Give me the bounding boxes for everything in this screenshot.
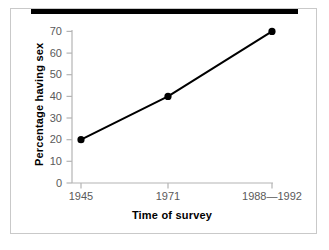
y-axis-ticks — [67, 31, 73, 183]
x-tick-label-1988-1992: 1988—1992 — [232, 191, 312, 202]
x-tick-label-1945: 1945 — [56, 191, 106, 202]
data-point-1971 — [164, 93, 171, 100]
x-axis-ticks — [81, 183, 272, 189]
y-tick-label-70: 70 — [36, 26, 62, 37]
y-axis-title: Percentage having sex — [33, 43, 45, 166]
figure-container: 70 60 50 40 30 20 10 0 1945 1971 1988—19… — [0, 0, 329, 250]
data-point-1945 — [77, 136, 84, 143]
y-tick-label-0: 0 — [36, 178, 62, 189]
data-line-series-1 — [81, 31, 272, 139]
x-axis-title: Time of survey — [72, 209, 272, 221]
x-tick-label-1971: 1971 — [143, 191, 193, 202]
data-point-1988-1992 — [268, 28, 275, 35]
